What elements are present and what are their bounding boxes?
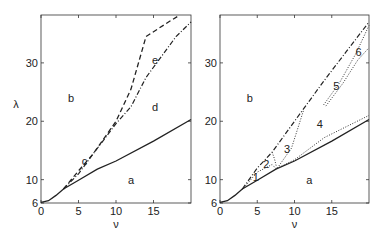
region-label: b bbox=[247, 92, 253, 104]
curve-dotted-5a bbox=[324, 26, 369, 105]
axes-frame bbox=[220, 15, 369, 203]
curve-dotted-2-3 bbox=[272, 152, 277, 167]
right-plot-panel: 0510156102030νab123456 bbox=[205, 15, 369, 230]
region-label: 1 bbox=[253, 171, 259, 183]
left-plot-panel: 0510156102030νλabcde bbox=[13, 15, 191, 230]
curve-solid bbox=[41, 120, 191, 203]
region-label: b bbox=[68, 92, 74, 104]
y-tick-label: 6 bbox=[32, 197, 38, 209]
x-tick-label: 15 bbox=[326, 205, 338, 217]
y-tick-label: 30 bbox=[26, 57, 38, 69]
x-tick-label: 10 bbox=[110, 205, 122, 217]
y-tick-label: 20 bbox=[205, 115, 217, 127]
x-tick-label: 10 bbox=[288, 205, 300, 217]
y-tick-label: 30 bbox=[205, 57, 217, 69]
region-label: 4 bbox=[317, 118, 323, 130]
y-tick-label: 10 bbox=[205, 174, 217, 186]
y-axis-label: λ bbox=[13, 98, 19, 110]
y-tick-label: 6 bbox=[211, 197, 217, 209]
region-label: a bbox=[128, 174, 135, 186]
x-tick-label: 0 bbox=[217, 205, 223, 217]
x-axis-label: ν bbox=[292, 218, 298, 230]
region-label: 3 bbox=[284, 143, 290, 155]
x-tick-label: 5 bbox=[254, 205, 260, 217]
x-tick-label: 5 bbox=[75, 205, 81, 217]
x-tick-label: 15 bbox=[147, 205, 159, 217]
axes-frame bbox=[41, 15, 191, 203]
x-axis-label: ν bbox=[113, 218, 119, 230]
region-label: a bbox=[306, 174, 313, 186]
x-tick-label: 0 bbox=[38, 205, 44, 217]
curve-dotted-5b bbox=[326, 48, 369, 106]
region-label: 5 bbox=[333, 80, 339, 92]
y-tick-label: 10 bbox=[26, 174, 38, 186]
region-label: 6 bbox=[356, 46, 362, 58]
region-label: e bbox=[152, 54, 158, 66]
figure: 0510156102030νλabcde 0510156102030νab123… bbox=[0, 0, 388, 240]
curve-solid bbox=[220, 120, 369, 203]
curve-dash-dot bbox=[242, 22, 369, 189]
region-label: d bbox=[152, 101, 158, 113]
region-label: 2 bbox=[263, 158, 269, 170]
region-label: c bbox=[82, 155, 88, 167]
y-tick-label: 20 bbox=[26, 115, 38, 127]
